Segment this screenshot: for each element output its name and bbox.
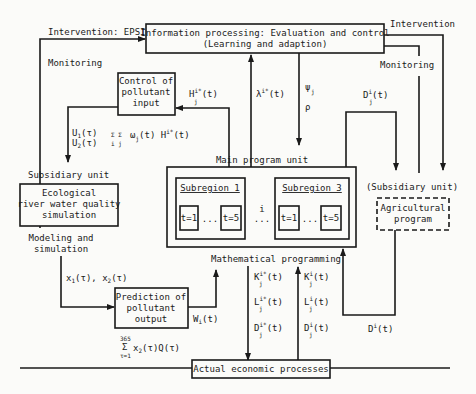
subregion-3-dots: ... xyxy=(302,214,318,224)
sum-indices: i j xyxy=(111,140,122,148)
w-label: Wi(t) xyxy=(193,314,218,325)
x-label: x1(τ), x2(τ) xyxy=(66,273,127,284)
subregion-3-t1: t=1 xyxy=(281,213,297,223)
sum365-symbol: Σ xyxy=(122,342,127,352)
subsidiary-unit-right-label: (Subsidiary unit) xyxy=(366,182,458,192)
sum365-bottom: τ=1 xyxy=(120,352,131,359)
eco-box-line1: Ecological xyxy=(42,188,96,198)
sum-expression: ωj(t) Hi*(t) xyxy=(130,128,190,143)
subregion-1-title: Subregion 1 xyxy=(180,183,240,193)
subregion-1-dots: ... xyxy=(202,214,218,224)
u2-label: U2(τ) xyxy=(72,138,97,149)
kld-star-labels: Ki*(t) j Li*(t) j Di*(t) j xyxy=(254,270,283,339)
svg-text:Di(t): Di(t) xyxy=(304,321,329,333)
monitoring-left-label: Monitoring xyxy=(48,58,102,68)
w-arrow xyxy=(188,270,216,307)
subregion-3-title: Subregion 3 xyxy=(282,183,342,193)
modeling-label-2: simulation xyxy=(34,244,88,254)
control-box-line2: pollutant xyxy=(122,87,171,97)
dji-top-label: Di(t) xyxy=(363,88,388,100)
agri-box-line2: program xyxy=(394,214,432,224)
svg-text:j: j xyxy=(259,305,263,313)
rho-label: ρ xyxy=(305,102,310,112)
prediction-box-line3: output xyxy=(135,314,168,324)
h-sub: j xyxy=(194,98,198,106)
eco-box-line3: simulation xyxy=(42,210,96,220)
system-diagram: Information processing: Evaluation and c… xyxy=(0,0,476,394)
eco-box-line2: river water quality xyxy=(18,199,122,209)
svg-text:j: j xyxy=(309,305,313,313)
information-processing-subtitle: (Learning and adaption) xyxy=(203,39,328,49)
intervention-right-label: Intervention xyxy=(390,19,455,29)
actual-economic-processes-label: Actual economic processes xyxy=(193,364,328,374)
modeling-label-1: Modeling and xyxy=(28,233,93,243)
svg-text:Li(t): Li(t) xyxy=(304,295,329,307)
information-processing-title: Information processing: Evaluation and c… xyxy=(140,28,389,38)
svg-text:j: j xyxy=(309,331,313,339)
intervention-epsi-label: Intervention: EPSI xyxy=(48,27,146,37)
prediction-box-line1: Prediction of xyxy=(116,292,186,302)
subregion-index-i: i xyxy=(259,204,264,214)
svg-text:Ki(t): Ki(t) xyxy=(304,270,329,282)
control-box-line3: input xyxy=(132,98,159,108)
subregion-3-t5: t=5 xyxy=(323,213,339,223)
agri-box-line1: Agricultural xyxy=(380,203,445,213)
sum-symbol: Σ Σ xyxy=(111,131,122,138)
mathematical-programming-label: Mathematical programming xyxy=(211,254,341,264)
di-bottom-label: Di(t) xyxy=(368,322,393,334)
subregion-1-t1: t=1 xyxy=(181,213,197,223)
monitoring-right-line-top xyxy=(384,46,419,56)
svg-text:j: j xyxy=(309,280,313,288)
intervention-right-arrow xyxy=(384,35,443,170)
svg-text:j: j xyxy=(259,331,263,339)
sum365-expression: x2(τ)Q(τ) xyxy=(133,343,180,354)
subregion-1-t5: t=5 xyxy=(223,213,239,223)
monitoring-right-label: Monitoring xyxy=(380,60,434,70)
subsidiary-unit-label: Subsidiary unit xyxy=(28,170,109,180)
lambda-label: λi*(t) xyxy=(256,87,285,99)
main-program-unit-label: Main program unit xyxy=(216,155,308,165)
svg-text:j: j xyxy=(259,280,263,288)
psi-sub: j xyxy=(311,88,315,96)
sum365-top: 365 xyxy=(120,335,131,342)
kld-plain-labels: Ki(t) j Li(t) j Di(t) j xyxy=(304,270,329,339)
dji-top-sub: j xyxy=(369,98,373,106)
psi-label: ψ xyxy=(305,82,310,92)
subregion-ellipsis: ... xyxy=(254,214,270,224)
prediction-box-line2: pollutant xyxy=(127,303,176,313)
control-box-line1: Control of xyxy=(119,76,173,86)
